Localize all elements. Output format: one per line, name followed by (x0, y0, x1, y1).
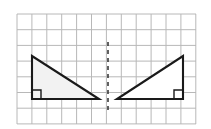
figure-container (0, 0, 211, 129)
left-triangle (32, 56, 99, 99)
geometry-figure (0, 0, 211, 129)
right-triangle (117, 56, 183, 99)
